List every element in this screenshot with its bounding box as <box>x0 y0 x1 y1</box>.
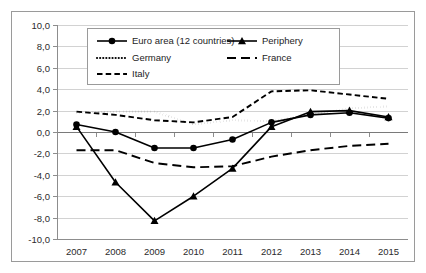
y-axis-tick-label: 8,0 <box>37 41 50 52</box>
chart-legend: Euro area (12 countries)PeripheryGermany… <box>88 29 340 85</box>
y-axis-tick-label: -4,0 <box>34 170 50 181</box>
y-axis-tick-label: -8,0 <box>34 213 50 224</box>
y-axis-tick-label: -6,0 <box>34 191 50 202</box>
x-axis-tick-label: 2010 <box>183 246 204 257</box>
data-point-marker-circle <box>229 136 236 143</box>
data-point-marker-circle <box>151 145 158 152</box>
y-axis-tick-label: 6,0 <box>37 63 50 74</box>
x-axis-tick-label: 2012 <box>261 246 282 257</box>
x-axis-tick-label: 2007 <box>66 246 87 257</box>
series-italy <box>77 90 389 122</box>
y-axis-tick-label: 0,0 <box>37 127 50 138</box>
data-point-marker-circle <box>112 129 119 136</box>
x-axis-tick-label: 2013 <box>300 246 321 257</box>
series-line <box>77 144 389 168</box>
y-axis-tick-label: 10,0 <box>32 20 51 31</box>
y-axis-tick-labels: 10,08,06,04,02,00,0-2,0-4,0-6,0-8,0-10,0 <box>28 20 50 245</box>
legend-label: Euro area (12 countries) <box>132 35 234 46</box>
chart-figure: 10,08,06,04,02,00,0-2,0-4,0-6,0-8,0-10,0… <box>0 0 426 273</box>
series-line <box>77 90 389 122</box>
y-axis-tick-label: -10,0 <box>28 234 50 245</box>
x-axis-tick-label: 2011 <box>222 246 242 257</box>
x-axis-tick-label: 2008 <box>105 246 126 257</box>
x-axis-tick-label: 2015 <box>378 246 399 257</box>
x-axis-tick-labels: 200720082009201020112012201320142015 <box>66 246 399 257</box>
x-tick-marks-group <box>97 133 370 137</box>
data-point-marker-circle <box>190 145 197 152</box>
data-point-marker-circle <box>109 38 116 45</box>
legend-label: France <box>262 52 292 63</box>
line-chart-plot: 10,08,06,04,02,00,0-2,0-4,0-6,0-8,0-10,0… <box>12 12 414 261</box>
y-axis-tick-label: 2,0 <box>37 106 50 117</box>
chart-border: 10,08,06,04,02,00,0-2,0-4,0-6,0-8,0-10,0… <box>11 11 415 262</box>
legend-label: Germany <box>132 52 171 63</box>
y-axis-tick-label: -2,0 <box>34 148 50 159</box>
legend-label: Periphery <box>262 35 303 46</box>
series-france <box>77 144 389 168</box>
data-series-group <box>73 90 393 224</box>
legend-label: Italy <box>132 68 150 79</box>
y-axis-tick-label: 4,0 <box>37 84 50 95</box>
x-axis-tick-label: 2009 <box>144 246 165 257</box>
x-axis-tick-label: 2014 <box>339 246 360 257</box>
y-tick-marks-group <box>53 26 57 240</box>
